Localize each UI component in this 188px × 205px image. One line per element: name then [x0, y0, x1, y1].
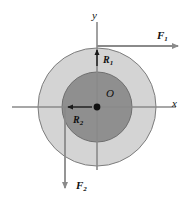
radius-r1-subscript: 1 — [110, 59, 114, 67]
origin-label: O — [106, 88, 114, 99]
radius-r2-subscript: 2 — [80, 119, 84, 127]
force-f1-label: F1 — [157, 30, 168, 41]
force-f2-label: F2 — [76, 180, 87, 191]
x-axis-label: x — [172, 98, 177, 109]
radius-r1-symbol: R — [103, 54, 110, 65]
force-f2-subscript: 2 — [83, 185, 87, 193]
origin-dot — [94, 104, 101, 111]
radius-r2-symbol: R — [73, 114, 80, 125]
y-axis-label: y — [92, 10, 97, 21]
physics-figure: y x O F1 F2 R1 R2 — [0, 0, 188, 205]
radius-r2-label: R2 — [73, 115, 83, 125]
force-f1-subscript: 1 — [164, 35, 168, 43]
radius-r1-label: R1 — [103, 55, 113, 65]
